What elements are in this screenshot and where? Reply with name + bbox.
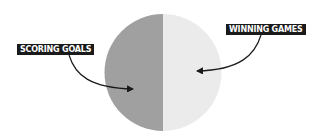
pie-chart — [0, 0, 321, 139]
slice-scoring-goals — [105, 14, 163, 131]
label-scoring-goals: SCORING GOALS — [17, 44, 94, 55]
slice-winning-games — [163, 14, 222, 131]
label-winning-games: WINNING GAMES — [226, 24, 306, 35]
